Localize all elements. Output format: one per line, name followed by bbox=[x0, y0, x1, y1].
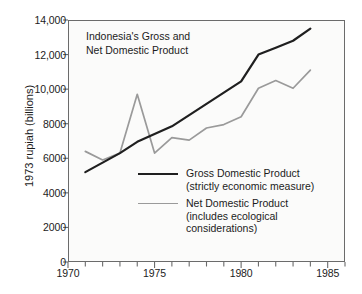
x-tick-label: 1970 bbox=[45, 268, 91, 279]
x-tick-label: 1985 bbox=[305, 268, 351, 279]
legend-swatch-net-icon bbox=[138, 203, 178, 204]
y-tick-label: 14,000 bbox=[6, 15, 66, 26]
y-tick-label: 4000 bbox=[6, 188, 66, 199]
x-tick-label: 1975 bbox=[132, 268, 178, 279]
series-line-net-domestic-product bbox=[85, 70, 310, 160]
x-axis-ticks bbox=[68, 262, 345, 268]
legend-swatch-gross-icon bbox=[138, 173, 178, 175]
chart-figure: 1973 rupiah (billions) 02000400060008000… bbox=[0, 0, 362, 294]
chart-legend: Gross Domestic Product (strictly economi… bbox=[186, 167, 314, 240]
y-tick-label: 10,000 bbox=[6, 84, 66, 95]
legend-sublabel-gross: (strictly economic measure) bbox=[186, 180, 314, 193]
legend-label-net: Net Domestic Product bbox=[186, 197, 314, 210]
legend-sublabel-net: (includes ecological considerations) bbox=[186, 210, 314, 235]
y-tick-label: 2000 bbox=[6, 222, 66, 233]
legend-entry-gross: Gross Domestic Product (strictly economi… bbox=[186, 167, 314, 192]
legend-entry-net: Net Domestic Product (includes ecologica… bbox=[186, 197, 314, 235]
legend-label-gross: Gross Domestic Product bbox=[186, 167, 314, 180]
y-tick-label: 8000 bbox=[6, 119, 66, 130]
y-tick-label: 0 bbox=[6, 257, 66, 268]
chart-title: Indonesia's Gross and Net Domestic Produ… bbox=[86, 30, 190, 57]
x-tick-label: 1980 bbox=[218, 268, 264, 279]
y-tick-label: 6000 bbox=[6, 153, 66, 164]
y-tick-label: 12,000 bbox=[6, 50, 66, 61]
